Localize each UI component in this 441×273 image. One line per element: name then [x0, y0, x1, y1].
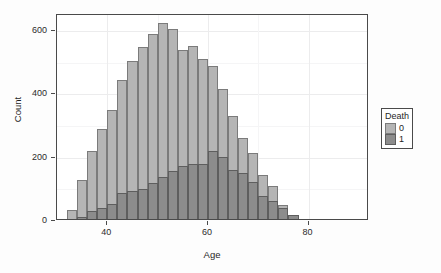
histogram-bar	[97, 129, 107, 220]
y-tick-mark	[51, 30, 55, 31]
gridline-y-minor	[57, 63, 367, 64]
x-tick-mark	[308, 221, 309, 225]
legend-item[interactable]: 0	[385, 123, 409, 134]
histogram-bar	[87, 151, 97, 220]
histogram-bar	[87, 211, 97, 220]
histogram-bar	[138, 189, 148, 220]
plot-panel	[56, 14, 368, 220]
x-axis-title: Age	[56, 249, 368, 260]
histogram-bar	[148, 183, 158, 220]
histogram-bar	[268, 201, 278, 220]
histogram-bar	[228, 170, 238, 220]
histogram-bar	[67, 210, 77, 220]
plot-area	[57, 15, 367, 219]
legend-swatch-icon	[385, 123, 396, 134]
y-tick-mark	[51, 220, 55, 221]
y-tick-label: 600	[17, 25, 47, 35]
gridline-x	[309, 15, 310, 219]
histogram-bar	[299, 219, 309, 220]
y-axis-title: Count	[12, 75, 23, 145]
histogram-bar	[188, 164, 198, 220]
histogram-bar	[278, 208, 288, 220]
histogram-bar	[258, 196, 268, 220]
histogram-bar	[127, 191, 137, 220]
legend-swatch-icon	[385, 134, 396, 145]
histogram-bar	[238, 173, 248, 220]
y-tick-label: 0	[17, 215, 47, 225]
legend-item-label: 0	[399, 123, 404, 134]
legend-title: Death	[385, 111, 409, 121]
histogram-bar	[77, 217, 87, 220]
legend-box: Death 01	[381, 108, 413, 149]
chart-figure: 4060800200400600 Age Count Death 01	[0, 0, 441, 273]
x-tick-label: 40	[86, 227, 126, 237]
histogram-bar	[198, 164, 208, 220]
legend-item[interactable]: 1	[385, 134, 409, 145]
histogram-bar	[77, 180, 87, 220]
x-tick-label: 80	[288, 227, 328, 237]
y-tick-mark	[51, 157, 55, 158]
x-tick-mark	[207, 221, 208, 225]
histogram-bar	[288, 215, 298, 220]
histogram-bar	[218, 157, 228, 220]
histogram-bar	[97, 208, 107, 220]
legend-item-label: 1	[399, 134, 404, 145]
x-tick-mark	[106, 221, 107, 225]
histogram-bar	[248, 182, 258, 220]
legend: Death 01	[381, 108, 413, 149]
histogram-bar	[178, 166, 188, 220]
histogram-bar	[299, 219, 309, 220]
legend-entries: 01	[385, 123, 409, 145]
gridline-y	[57, 31, 367, 32]
y-tick-mark	[51, 93, 55, 94]
histogram-bar	[107, 204, 117, 220]
histogram-bar	[168, 171, 178, 220]
y-tick-label: 200	[17, 152, 47, 162]
histogram-bar	[208, 151, 218, 220]
histogram-bar	[117, 193, 127, 220]
x-tick-label: 60	[187, 227, 227, 237]
histogram-bar	[158, 177, 168, 220]
